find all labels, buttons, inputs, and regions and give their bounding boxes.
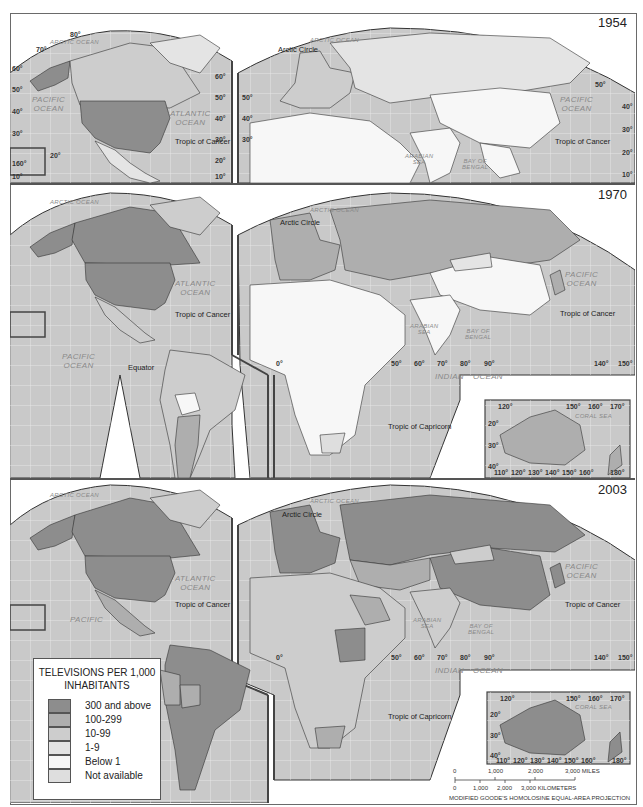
lon-tick: 80°: [460, 360, 471, 367]
indian-ocean-label-2: OCEAN: [473, 666, 503, 675]
atlantic-line2: OCEAN: [180, 288, 210, 297]
lon-tick: 0°: [276, 360, 283, 367]
arctic-ocean-label-east: ARCTIC OCEAN: [310, 498, 359, 504]
scale-km-2000: 2,000: [497, 785, 512, 791]
inset-lon-tick: 150°: [564, 757, 578, 764]
pacific-ocean-east-label: PACIFICOCEAN: [565, 270, 598, 288]
inset-lon-tick: 180°: [610, 469, 624, 476]
lat-tick: 30°: [242, 136, 253, 143]
atlantic-ocean-label: ATLANTICOCEAN: [175, 279, 215, 297]
pacific-e-line2: OCEAN: [562, 104, 592, 113]
arabian-line2: SEA: [418, 329, 431, 335]
legend-label: 300 and above: [85, 700, 151, 711]
lon-tick: 60°: [414, 654, 425, 661]
indian-ocean-label-1: INDIAN: [435, 666, 464, 675]
arabian-sea-label: ARABIANSEA: [410, 323, 438, 335]
lon-tick: 140°: [594, 654, 608, 661]
atlantic-line1: ATLANTIC: [175, 279, 215, 288]
lat-tick: 30°: [215, 136, 226, 143]
arctic-ocean-label: ARCTIC OCEAN: [50, 492, 99, 498]
lon-tick: 90°: [484, 360, 495, 367]
legend-label: 100-299: [85, 714, 122, 725]
inset-lon-tick: 150°: [566, 695, 580, 702]
lon-tick: 80°: [460, 654, 471, 661]
lat-tick: 10°: [622, 171, 633, 178]
inset-lon-tick: 180°: [612, 757, 626, 764]
lon-tick: 50°: [391, 654, 402, 661]
lat-tick: 70°: [36, 46, 47, 53]
coral-sea-label: CORAL SEA: [575, 704, 612, 710]
legend-label: 10-99: [85, 728, 111, 739]
year-label-1970: 1970: [598, 187, 627, 202]
inset-lon-tick: 120°: [513, 757, 527, 764]
lat-tick: 60°: [215, 73, 226, 80]
coral-sea-label: CORAL SEA: [575, 413, 612, 419]
lon-tick: 60°: [414, 360, 425, 367]
bay-of-bengal-label: BAY OFBENGAL: [465, 328, 491, 340]
lat-tick: 40°: [622, 103, 633, 110]
pacific-ocean-east-label: PACIFICOCEAN: [560, 95, 593, 113]
inset-lon-tick: 140°: [547, 757, 561, 764]
legend-label: Below 1: [85, 756, 121, 767]
map-panel-1954: 1954 ARCTIC OCEAN ARCTIC OCEAN Arctic Ci…: [10, 13, 635, 185]
lat-tick: 80°: [70, 31, 81, 38]
pacific-e-line2: OCEAN: [567, 279, 597, 288]
pacific-e-line1: PACIFIC: [565, 270, 598, 279]
inset-lon-tick: 150°: [562, 469, 576, 476]
scale-bar-graphic: [453, 774, 633, 794]
indian-ocean-label-1: INDIAN: [435, 372, 464, 381]
lon-tick: 90°: [484, 654, 495, 661]
legend-label: Not available: [85, 770, 143, 781]
tropic-of-cancer-east-label: Tropic of Cancer: [555, 137, 610, 146]
indian-ocean-label-2: OCEAN: [473, 372, 503, 381]
arctic-ocean-label: ARCTIC OCEAN: [50, 39, 99, 45]
lat-tick: 30°: [622, 126, 633, 133]
pacific-e-line2: OCEAN: [567, 571, 597, 580]
arctic-ocean-label-east: ARCTIC OCEAN: [310, 207, 359, 213]
atlantic-line2: OCEAN: [175, 118, 205, 127]
arctic-circle-label: Arctic Circle: [280, 218, 320, 227]
lat-tick: 20°: [622, 149, 633, 156]
pacific-ocean-west-label: PACIFICOCEAN: [62, 352, 95, 370]
inset-lon-tick: 130°: [528, 469, 542, 476]
tropic-of-capricorn-label: Tropic of Capricorn: [388, 712, 452, 721]
pacific-line2: OCEAN: [64, 361, 94, 370]
lon-tick: 70°: [437, 654, 448, 661]
pacific-line2: OCEAN: [34, 104, 64, 113]
inset-lon-tick: 150°: [566, 403, 580, 410]
arctic-ocean-label-east: ARCTIC OCEAN: [310, 37, 359, 43]
atlantic-line1: ATLANTIC: [175, 574, 215, 583]
scale-miles-3000: 3,000 MILES: [565, 768, 600, 774]
projection-label: MODIFIED GOODE'S HOMOLOSINE EQUAL-AREA P…: [449, 795, 630, 801]
pacific-e-line1: PACIFIC: [565, 562, 598, 571]
lon-tick: 150°: [618, 360, 632, 367]
atlantic-line1: ATLANTIC: [170, 109, 210, 118]
lat-tick: 20°: [50, 152, 61, 159]
scale-km-1000: 1,000: [473, 785, 488, 791]
lat-tick: 10°: [215, 173, 226, 180]
inset-lon-tick: 170°: [610, 695, 624, 702]
legend-swatch: [48, 713, 71, 727]
lon-tick: 150°: [618, 654, 632, 661]
legend-swatch: [48, 755, 71, 769]
lat-tick: 50°: [242, 94, 253, 101]
bengal-line2: BENGAL: [462, 164, 488, 170]
tropic-of-capricorn-label: Tropic of Capricorn: [388, 422, 452, 431]
inset-lat-tick: 20°: [488, 420, 499, 427]
bengal-line2: BENGAL: [465, 334, 491, 340]
bay-of-bengal-label: BAY OFBENGAL: [468, 623, 494, 635]
inset-lon-tick: 160°: [588, 403, 602, 410]
inset-lon-tick: 110°: [496, 757, 510, 764]
lon-tick: 160°: [12, 160, 26, 167]
legend-label: 1-9: [85, 742, 99, 753]
lat-tick: 50°: [595, 81, 606, 88]
inset-lon-tick: 120°: [500, 695, 514, 702]
scale-km-0: 0: [453, 785, 456, 791]
lat-tick: 10°: [12, 173, 23, 180]
inset-lon-tick: 120°: [511, 469, 525, 476]
legend-swatch: [48, 727, 71, 741]
inset-lon-tick: 140°: [545, 469, 559, 476]
lat-tick: 40°: [242, 115, 253, 122]
pacific-ocean-east-label: PACIFICOCEAN: [565, 562, 598, 580]
scale-km-3000: 3,000 KILOMETERS: [521, 785, 576, 791]
